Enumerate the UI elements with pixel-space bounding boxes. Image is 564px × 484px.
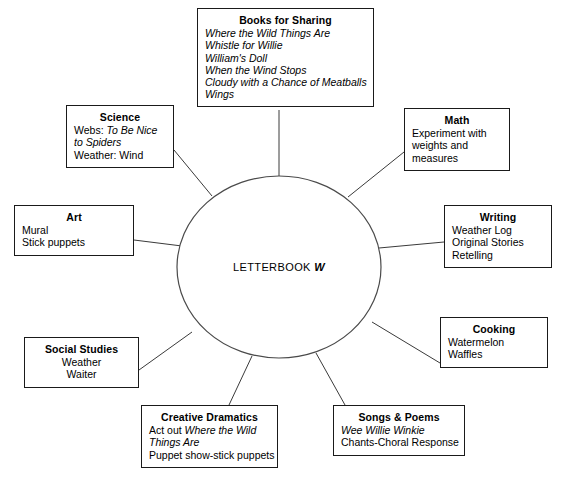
node-social-studies-line-2: Waiter (32, 368, 131, 380)
node-science-title: Science (74, 111, 166, 123)
node-social-studies-lines: Weather Waiter (32, 356, 131, 380)
node-math-lines: Experiment with weights and measures (412, 127, 502, 164)
node-songs-poems-lines: Wee Willie Winkie Chants-Choral Response (341, 424, 457, 448)
node-science-lines: Webs: To Be Nice to Spiders Weather: Win… (74, 124, 166, 161)
node-books-line-6: Wings (205, 88, 366, 100)
node-cooking-title: Cooking (448, 323, 540, 335)
hub-label: LETTERBOOK W (233, 261, 326, 273)
node-cooking-line-2: Waffles (448, 348, 540, 360)
hub-label-letter: W (314, 261, 326, 273)
connector-art (134, 240, 182, 246)
node-books-line-4: When the Wind Stops (205, 64, 366, 76)
node-science-line-1: Webs: To Be Nice to Spiders (74, 124, 166, 148)
node-songs-poems[interactable]: Songs & Poems Wee Willie Winkie Chants-C… (333, 405, 465, 456)
node-art[interactable]: Art Mural Stick puppets (14, 205, 134, 256)
node-math-line-1: Experiment with (412, 127, 502, 139)
node-cooking[interactable]: Cooking Watermelon Waffles (440, 317, 548, 368)
connector-cooking (372, 322, 440, 363)
node-science[interactable]: Science Webs: To Be Nice to Spiders Weat… (66, 105, 174, 168)
connector-math (348, 152, 404, 197)
node-writing-line-3: Retelling (452, 249, 544, 261)
diagram-page: LETTERBOOK W Books for Sharing Where the… (0, 0, 564, 484)
node-creative-dramatics-lines: Act out Where the Wild Things Are Puppet… (149, 424, 270, 461)
node-books[interactable]: Books for Sharing Where the Wild Things … (197, 8, 374, 107)
node-science-line-2: Weather: Wind (74, 149, 166, 161)
node-writing-lines: Weather Log Original Stories Retelling (452, 224, 544, 261)
node-books-title: Books for Sharing (205, 14, 366, 26)
node-songs-poems-title: Songs & Poems (341, 411, 457, 423)
node-songs-poems-line-2: Chants-Choral Response (341, 436, 457, 448)
node-cooking-lines: Watermelon Waffles (448, 336, 540, 360)
connector-dramatics (229, 356, 252, 405)
node-social-studies[interactable]: Social Studies Weather Waiter (24, 337, 139, 388)
node-social-studies-line-1: Weather (32, 356, 131, 368)
node-writing-title: Writing (452, 211, 544, 223)
node-books-line-2: Whistle for Willie (205, 39, 366, 51)
node-writing-line-2: Original Stories (452, 236, 544, 248)
connector-science (174, 150, 212, 196)
node-art-lines: Mural Stick puppets (22, 224, 126, 248)
connector-songs (316, 353, 345, 405)
node-writing[interactable]: Writing Weather Log Original Stories Ret… (444, 205, 552, 268)
hub-label-prefix: LETTERBOOK (233, 261, 314, 273)
connector-social (139, 332, 192, 370)
node-books-lines: Where the Wild Things Are Whistle for Wi… (205, 27, 366, 100)
node-math-title: Math (412, 114, 502, 126)
node-math[interactable]: Math Experiment with weights and measure… (404, 108, 510, 171)
node-social-studies-title: Social Studies (32, 343, 131, 355)
node-math-line-3: measures (412, 152, 502, 164)
connector-writing (379, 242, 444, 248)
node-art-line-1: Mural (22, 224, 126, 236)
node-cooking-line-1: Watermelon (448, 336, 540, 348)
node-creative-dramatics-line-2: Puppet show-stick puppets (149, 449, 270, 461)
node-books-line-3: William's Doll (205, 52, 366, 64)
node-art-title: Art (22, 211, 126, 223)
node-creative-dramatics-title: Creative Dramatics (149, 411, 270, 423)
node-books-line-1: Where the Wild Things Are (205, 27, 366, 39)
node-creative-dramatics[interactable]: Creative Dramatics Act out Where the Wil… (141, 405, 278, 468)
node-math-line-2: weights and (412, 139, 502, 151)
node-songs-poems-line-1: Wee Willie Winkie (341, 424, 457, 436)
node-books-line-5: Cloudy with a Chance of Meatballs (205, 76, 366, 88)
node-art-line-2: Stick puppets (22, 236, 126, 248)
node-writing-line-1: Weather Log (452, 224, 544, 236)
node-creative-dramatics-line-1: Act out Where the Wild Things Are (149, 424, 270, 448)
